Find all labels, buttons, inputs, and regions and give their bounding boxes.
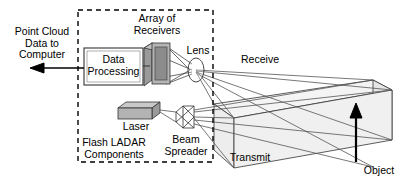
label-lens: Lens [182,45,214,57]
laser-to-spreader-beam [160,110,176,122]
label-receive: Receive [232,54,288,66]
label-transmit: Transmit [222,152,278,164]
label-laser: Laser [114,121,158,133]
flash-ladar-diagram: Point Cloud Data to Computer Data Proces… [0,0,413,186]
laser-box [118,102,160,119]
beam-spreader-prism [176,106,194,128]
label-array-of-receivers: Array of Receivers [124,13,190,36]
label-point-cloud-output: Point Cloud Data to Computer [6,26,78,61]
label-data-processing: Data Processing [84,54,143,77]
label-beam-spreader: Beam Spreader [160,134,212,157]
label-object: Object [355,165,403,177]
label-flash-ladar-components: Flash LADAR Components [80,137,148,160]
array-of-receivers-panel [144,43,170,86]
point-cloud-output-arrow [30,63,84,73]
lens-ellipse [188,58,204,82]
